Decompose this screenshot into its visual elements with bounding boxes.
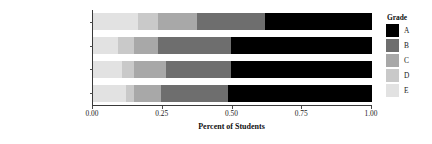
x-axis-tick-label: 0.75 <box>281 109 321 118</box>
legend-item-label: C <box>404 57 409 64</box>
bar-segment-b <box>161 85 228 102</box>
bar-segment-c <box>134 85 161 102</box>
bar-segment-e <box>93 85 126 102</box>
bar-segment-c <box>158 13 197 30</box>
legend-item-d[interactable]: D <box>386 68 430 83</box>
bar-segment-e <box>93 61 122 78</box>
bar-row <box>93 37 372 54</box>
stacked-bar-chart: Freshman (n = 1431)Sophomore (n = 584)Ju… <box>0 0 432 144</box>
legend-swatch-icon <box>386 69 399 82</box>
legend-item-c[interactable]: C <box>386 53 430 68</box>
legend-item-b[interactable]: B <box>386 38 430 53</box>
bar-segment-d <box>118 37 134 54</box>
legend-item-e[interactable]: E <box>386 83 430 98</box>
legend-title: Grade <box>387 14 430 21</box>
bar-segment-b <box>158 37 231 54</box>
y-tick <box>90 93 93 94</box>
bar-segment-d <box>122 61 134 78</box>
legend-item-label: A <box>404 27 409 34</box>
bar-row <box>93 13 372 30</box>
x-axis-tick-label: 1.00 <box>351 109 391 118</box>
x-axis-title: Percent of Students <box>92 122 371 131</box>
bar-row <box>93 85 372 102</box>
bar-segment-a <box>231 61 372 78</box>
legend-swatch-icon <box>386 24 399 37</box>
plot-area <box>92 10 372 105</box>
bar-segment-e <box>93 37 118 54</box>
bar-segment-b <box>166 61 231 78</box>
x-axis-tick-label: 0.50 <box>212 109 252 118</box>
legend-item-a[interactable]: A <box>386 23 430 38</box>
x-axis-tick-label: 0.25 <box>142 109 182 118</box>
bar-segment-a <box>265 13 372 30</box>
bar-segment-d <box>138 13 158 30</box>
legend-swatch-icon <box>386 84 399 97</box>
bar-row <box>93 61 372 78</box>
bar-segment-c <box>134 61 166 78</box>
y-tick <box>90 22 93 23</box>
legend: Grade ABCDE <box>386 14 430 98</box>
legend-item-label: B <box>404 42 409 49</box>
y-tick <box>90 46 93 47</box>
legend-item-label: E <box>404 87 409 94</box>
legend-items: ABCDE <box>386 23 430 98</box>
x-axis-tick-label: 0.00 <box>72 109 112 118</box>
bar-segment-a <box>231 37 372 54</box>
legend-swatch-icon <box>386 39 399 52</box>
bar-segment-d <box>126 85 134 102</box>
legend-swatch-icon <box>386 54 399 67</box>
bar-segment-c <box>134 37 158 54</box>
bar-segment-a <box>228 85 372 102</box>
bar-segment-b <box>197 13 265 30</box>
legend-item-label: D <box>404 72 409 79</box>
y-tick <box>90 69 93 70</box>
bar-segment-e <box>93 13 138 30</box>
